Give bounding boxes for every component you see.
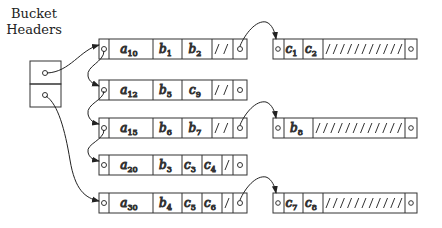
pointer-dot-icon [238, 201, 243, 206]
bucket-block: a15b6b7 [99, 118, 247, 138]
pointer-dot-icon [102, 163, 107, 168]
overflow-block: b8 [273, 118, 417, 138]
pointer-dot-icon [238, 126, 243, 131]
overflow-block: c1c2 [273, 39, 417, 59]
pointer-dot-icon [102, 201, 107, 206]
pointer-dot-icon [409, 126, 414, 131]
pointer-dot-icon [276, 47, 281, 52]
pointer-dot-icon [409, 47, 414, 52]
arrow-header1-to-block1 [47, 45, 99, 73]
bucket-block: a30b4c5c6 [99, 193, 247, 213]
pointer-dot-icon [238, 163, 243, 168]
main-blocks: a10b1b2a12b5c9a15b6b7a20b3c3c4a30b4c5c6 [99, 39, 247, 213]
bucket-header-array [30, 61, 61, 107]
arrow-header2-to-block5 [46, 96, 99, 201]
pointer-dot-icon [43, 71, 48, 76]
pointer-dot-icon [276, 201, 281, 206]
pointer-dot-icon [409, 201, 414, 206]
pointer-dot-icon [238, 47, 243, 52]
bucket-block: a10b1b2 [99, 39, 247, 59]
bucket-block: a12b5c9 [99, 80, 247, 100]
bucket-block: a20b3c3c4 [99, 155, 247, 175]
pointer-dot-icon [276, 126, 281, 131]
pointer-dot-icon [102, 47, 107, 52]
pointer-dot-icon [102, 126, 107, 131]
overflow-block: c7c8 [273, 193, 417, 213]
overflow-blocks: c1c2b8c7c8 [273, 39, 417, 213]
pointer-dot-icon [238, 88, 243, 93]
bucket-diagram: a10b1b2a12b5c9a15b6b7a20b3c3c4a30b4c5c6 … [0, 0, 442, 228]
